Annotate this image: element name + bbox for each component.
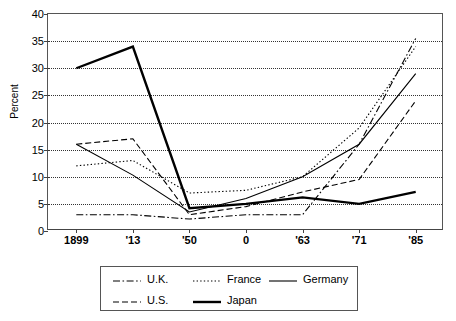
x-tick-label: '85 — [408, 235, 423, 246]
y-tick-label: 20 — [32, 117, 44, 128]
x-tick-label: 1899 — [64, 235, 88, 246]
y-tick-label: 30 — [32, 63, 44, 74]
legend-swatch-icon — [269, 273, 297, 285]
legend-swatch-icon — [193, 294, 221, 306]
y-tick-label: 40 — [32, 9, 44, 20]
x-tick-label: '13 — [125, 235, 140, 246]
series-line-germany — [76, 74, 415, 212]
legend-label: U.K. — [147, 274, 168, 285]
legend-item-u-k[interactable]: U.K. — [113, 268, 168, 290]
y-axis-title: Percent — [9, 62, 20, 142]
y-tick-label: 35 — [32, 36, 44, 47]
x-tick-label: 0 — [243, 235, 249, 246]
series-line-japan — [76, 47, 415, 209]
y-tick-mark — [44, 231, 48, 232]
plot-area: 0510152025303540 1899'13'500'63'71'85 — [47, 13, 443, 230]
x-tick-label: '71 — [352, 235, 367, 246]
series-line-u-s — [76, 101, 415, 215]
legend-label: France — [227, 274, 261, 285]
chart-figure: Percent 0510152025303540 1899'13'500'63'… — [0, 0, 456, 321]
legend-label: U.S. — [147, 295, 168, 306]
legend-swatch-icon — [113, 294, 141, 306]
legend-item-u-s[interactable]: U.S. — [113, 289, 168, 311]
y-tick-label: 15 — [32, 144, 44, 155]
legend-swatch-icon — [113, 273, 141, 285]
legend-label: Japan — [227, 295, 257, 306]
y-tick-label: 25 — [32, 90, 44, 101]
legend-row: U.K.FranceGermany — [101, 268, 357, 290]
y-tick-label: 10 — [32, 171, 44, 182]
series-line-u-k — [76, 38, 415, 219]
chart-legend: U.K.FranceGermanyU.S.Japan — [100, 266, 358, 311]
legend-swatch-icon — [193, 273, 221, 285]
legend-label: Germany — [303, 274, 348, 285]
x-tick-label: '50 — [182, 235, 197, 246]
legend-item-germany[interactable]: Germany — [269, 268, 348, 290]
x-tick-label: '63 — [295, 235, 310, 246]
legend-row: U.S.Japan — [101, 289, 357, 311]
series-lines — [48, 14, 444, 231]
legend-item-japan[interactable]: Japan — [193, 289, 257, 311]
legend-item-france[interactable]: France — [193, 268, 261, 290]
